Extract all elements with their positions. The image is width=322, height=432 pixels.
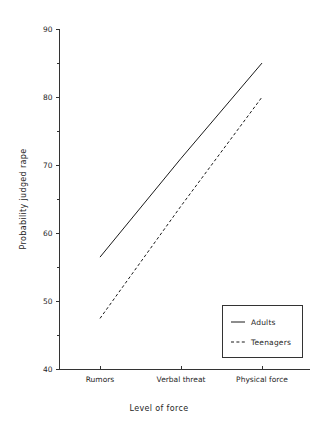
line-chart: 405060708090 RumorsVerbal threatPhysical…	[0, 0, 322, 432]
y-axis-tick-labels: 405060708090	[43, 25, 53, 375]
x-tick-label: Rumors	[86, 375, 115, 384]
legend-label-teenagers: Teenagers	[250, 338, 291, 347]
legend-label-adults: Adults	[251, 318, 276, 327]
y-axis-title: Probability judged rape	[19, 148, 28, 249]
series-line-adults	[100, 63, 262, 257]
chart-figure: 405060708090 RumorsVerbal threatPhysical…	[0, 0, 322, 432]
x-tick-label: Physical force	[236, 375, 288, 384]
x-tick-label: Verbal threat	[157, 375, 206, 384]
x-axis-ticks	[100, 366, 262, 370]
x-axis-tick-labels: RumorsVerbal threatPhysical force	[86, 375, 289, 384]
data-series-group	[100, 63, 262, 318]
y-tick-label: 80	[43, 93, 53, 102]
y-tick-label: 70	[43, 161, 53, 170]
y-tick-label: 50	[43, 297, 53, 306]
y-tick-label: 40	[43, 365, 53, 374]
y-tick-label: 90	[43, 25, 53, 34]
x-axis-title: Level of force	[130, 404, 189, 413]
y-tick-label: 60	[43, 229, 53, 238]
legend-box	[223, 306, 303, 358]
chart-legend: AdultsTeenagers	[223, 306, 303, 358]
series-line-teenagers	[100, 97, 262, 318]
